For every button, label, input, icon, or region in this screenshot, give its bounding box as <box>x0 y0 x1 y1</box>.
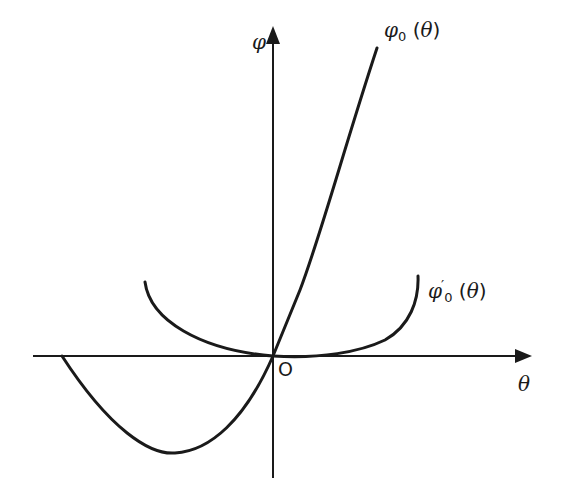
phi-axis-arrow-icon <box>266 26 280 44</box>
curve-phi0-prime-label: φ′0 (θ) <box>428 279 487 304</box>
origin-label: O <box>278 360 293 379</box>
curve-phi0 <box>62 48 377 453</box>
curve-phi0-prime <box>145 276 418 357</box>
diagram-svg <box>0 0 561 499</box>
phi-axis-label: φ <box>252 32 266 52</box>
curve-phi0-label: φ0 (θ) <box>384 20 440 43</box>
theta-axis-arrow-icon <box>515 349 532 363</box>
theta-axis-label: θ <box>518 374 530 394</box>
diagram-canvas: φ φ0 (θ) φ′0 (θ) O θ <box>0 0 561 499</box>
